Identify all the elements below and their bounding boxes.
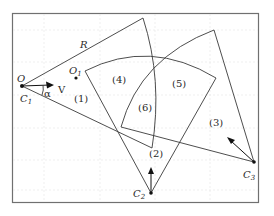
region-label-2: (2) [149,148,163,159]
label-r: R [79,39,88,50]
region-label-1: (1) [74,93,88,104]
sector-diagram: R O O1 C1 V α C2 C3 (1) (2) (3) (4) (5) … [0,0,274,216]
region-label-5: (5) [172,78,186,89]
label-o: O [17,73,25,84]
label-alpha: α [44,88,51,99]
region-label-6: (6) [138,102,152,113]
diagram-frame [13,14,259,203]
region-label-3: (3) [209,117,223,128]
region-label-4: (4) [112,74,126,85]
label-v: V [57,84,66,95]
